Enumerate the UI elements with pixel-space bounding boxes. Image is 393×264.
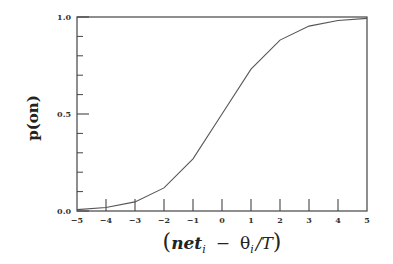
y-axis-label: p(on) <box>24 95 42 141</box>
x-label-subscript-i: i <box>202 243 206 256</box>
logistic-chart: 0.00.51.0 −5−4−3−2−1012345 p(on) (neti−θ… <box>0 0 393 264</box>
data-series <box>77 18 367 209</box>
x-tick-label: 0 <box>219 215 225 225</box>
x-tick-label: 5 <box>364 215 370 225</box>
x-label-subscript-i2: i <box>250 243 254 256</box>
x-label-slash-t: /T <box>254 233 275 253</box>
x-tick-label: 4 <box>335 215 341 225</box>
y-axis-ticks: 0.00.51.0 <box>57 12 89 216</box>
y-tick-label: 0.0 <box>57 206 71 216</box>
x-tick-label: −1 <box>187 215 199 225</box>
x-axis-ticks: −5−4−3−2−1012345 <box>71 199 370 225</box>
x-tick-label: −4 <box>100 215 113 225</box>
x-tick-label: 2 <box>277 215 283 225</box>
x-label-net: net <box>171 233 202 253</box>
x-axis-label: (neti−θi/T) <box>163 229 282 256</box>
x-tick-label: 1 <box>248 215 254 225</box>
x-tick-label: −2 <box>158 215 170 225</box>
x-label-theta: θ <box>240 233 250 253</box>
x-label-close-paren: ) <box>273 229 282 254</box>
y-tick-label: 0.5 <box>57 109 71 119</box>
x-tick-label: −5 <box>71 215 83 225</box>
series-line-logistic <box>77 18 367 209</box>
x-label-open-paren: ( <box>163 229 172 254</box>
y-tick-label: 1.0 <box>57 12 71 22</box>
x-tick-label: 3 <box>306 215 312 225</box>
x-label-minus: − <box>216 233 230 253</box>
x-tick-label: −3 <box>129 215 142 225</box>
